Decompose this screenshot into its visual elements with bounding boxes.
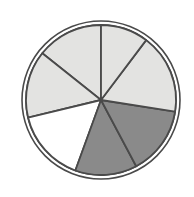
pie-chart-svg: [0, 0, 194, 197]
pie-slices-group: [26, 25, 176, 175]
pie-chart-figure: [0, 0, 194, 197]
